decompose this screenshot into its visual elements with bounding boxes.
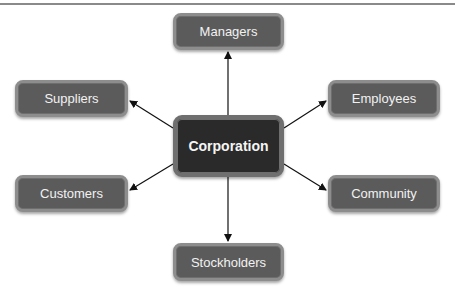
center-label: Corporation [188,138,268,154]
node-stockholders: Stockholders [173,243,284,281]
node-label: Employees [352,91,416,106]
node-employees: Employees [328,80,440,117]
node-label: Managers [200,24,258,39]
node-customers: Customers [15,175,128,212]
node-label: Community [351,186,417,201]
arrow-to-employees [284,101,326,128]
node-managers: Managers [173,13,284,50]
arrow-to-suppliers [130,101,173,128]
node-community: Community [328,175,440,212]
node-label: Customers [40,186,103,201]
arrow-to-customers [130,164,173,190]
node-label: Suppliers [44,91,98,106]
node-corporation: Corporation [173,115,284,177]
node-label: Stockholders [191,255,266,270]
node-suppliers: Suppliers [15,80,128,117]
arrow-to-community [284,164,326,190]
